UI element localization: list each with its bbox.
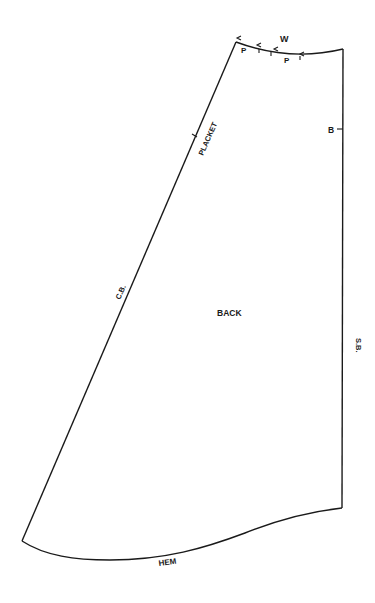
pattern-diagram: W P P PLACKET B C.B. BACK S.B. HEM bbox=[0, 0, 375, 603]
center-back-edge bbox=[22, 42, 236, 541]
notch-icon bbox=[237, 36, 241, 40]
hem-edge bbox=[22, 508, 342, 560]
waist-markings bbox=[237, 36, 304, 60]
piece-label: BACK bbox=[217, 308, 242, 318]
notch-icon bbox=[257, 43, 261, 47]
balance-mark-label: B bbox=[328, 125, 334, 135]
side-back-label: S.B. bbox=[354, 338, 363, 353]
pleat-label-right: P bbox=[284, 56, 290, 65]
notch-icon bbox=[274, 47, 278, 51]
side-back-edge bbox=[342, 49, 343, 508]
hem-label: HEM bbox=[158, 557, 177, 568]
pleat-label-left: P bbox=[241, 46, 247, 55]
pattern-outline bbox=[22, 42, 343, 560]
waist-edge bbox=[236, 42, 343, 54]
waist-label: W bbox=[280, 34, 289, 44]
